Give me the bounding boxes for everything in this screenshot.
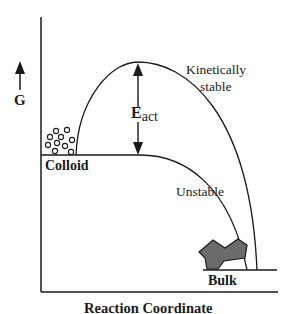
kinetically-stable-label: Kinetically bbox=[186, 62, 246, 78]
energy-diagram bbox=[0, 0, 295, 314]
activation-energy-symbol: E bbox=[131, 104, 142, 121]
unstable-label: Unstable bbox=[176, 184, 224, 200]
activation-energy-label: Eact bbox=[131, 104, 158, 122]
bulk-label: Bulk bbox=[208, 273, 237, 289]
g-up-arrow-icon bbox=[15, 61, 25, 90]
x-axis-label: Reaction Coordinate bbox=[84, 300, 212, 314]
bulk-crystal-icon bbox=[199, 239, 247, 269]
y-axis-label: G bbox=[14, 92, 26, 109]
kinetically-stable-label-line2: stable bbox=[200, 79, 232, 95]
colloid-label: Colloid bbox=[45, 158, 89, 174]
colloid-particles-icon bbox=[45, 127, 74, 154]
activation-energy-subscript: act bbox=[142, 109, 158, 124]
